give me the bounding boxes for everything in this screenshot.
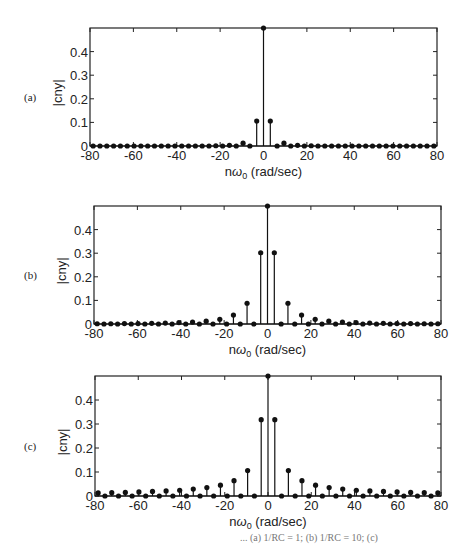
- stem-marker: [217, 317, 222, 322]
- x-tick-label: 0: [264, 498, 271, 513]
- stem-marker: [285, 301, 290, 306]
- y-axis-label: |cny|: [55, 429, 70, 456]
- stem-marker: [313, 483, 318, 488]
- stem-marker: [109, 490, 114, 495]
- stem-marker: [265, 203, 270, 208]
- stem-marker: [163, 320, 168, 325]
- stem-marker: [354, 488, 359, 493]
- x-tick-label: -40: [171, 326, 190, 341]
- figure-caption: ... (a) 1/RC = 1; (b) 1/RC = 10; (c): [240, 532, 378, 543]
- x-tick-label: 80: [434, 326, 448, 341]
- y-tick-label: 0.3: [74, 246, 92, 261]
- stem-marker: [327, 485, 332, 490]
- panel-label: (b): [24, 269, 37, 282]
- x-axis-label: nω0 (rad/sec): [225, 164, 302, 181]
- x-tick-label: 20: [304, 326, 318, 341]
- x-axis-label: nω0 (rad/sec): [229, 514, 306, 531]
- stem-marker: [261, 25, 266, 30]
- stem-marker: [204, 485, 209, 490]
- x-tick-label: 0: [264, 326, 271, 341]
- stem-marker: [295, 143, 300, 148]
- stem-marker: [281, 141, 286, 146]
- stem-marker: [394, 489, 399, 494]
- stem-marker: [231, 478, 236, 483]
- stem-plot-a: (a)-80-60-40-2002040608000.10.20.30.4nω0…: [24, 25, 444, 181]
- stem-marker: [218, 483, 223, 488]
- y-axis-label: |cny|: [50, 79, 65, 106]
- x-tick-label: 40: [343, 148, 357, 163]
- stem-marker: [96, 490, 101, 495]
- stem-marker: [245, 468, 250, 473]
- x-tick-label: 80: [434, 498, 448, 513]
- x-tick-label: 20: [304, 498, 318, 513]
- x-tick-label: -40: [167, 148, 186, 163]
- stem-marker: [367, 488, 372, 493]
- y-tick-label: 0: [81, 139, 88, 154]
- stem-marker: [254, 118, 259, 123]
- stem-marker: [367, 320, 372, 325]
- x-axis-label: nω0 (rad/sec): [229, 342, 306, 359]
- stem-plot-c: (c)-80-60-40-2002040608000.10.20.30.4nω0…: [24, 373, 448, 531]
- y-tick-label: 0.4: [70, 45, 88, 60]
- stem-marker: [177, 488, 182, 493]
- x-tick-label: 20: [300, 148, 314, 163]
- y-tick-label: 0: [86, 489, 93, 504]
- stem-marker: [326, 319, 331, 324]
- stem-plot-b: (b)-80-60-40-2002040608000.10.20.30.4nω0…: [24, 203, 448, 359]
- x-tick-label: 80: [430, 148, 444, 163]
- y-tick-label: 0.1: [70, 115, 88, 130]
- stem-marker: [265, 373, 270, 378]
- stem-marker: [123, 490, 128, 495]
- stem-marker: [227, 143, 232, 148]
- x-tick-label: -20: [211, 148, 230, 163]
- stem-marker: [272, 250, 277, 255]
- y-tick-label: 0.3: [75, 417, 93, 432]
- stem-marker: [286, 468, 291, 473]
- stem-marker: [435, 490, 440, 495]
- y-tick-label: 0: [85, 317, 92, 332]
- figure-stem-plots: (a)-80-60-40-2002040608000.10.20.30.4nω0…: [0, 0, 471, 544]
- y-tick-label: 0.4: [74, 223, 92, 238]
- x-tick-label: -40: [172, 498, 191, 513]
- x-tick-label: 40: [347, 498, 361, 513]
- x-tick-label: 0: [260, 148, 267, 163]
- x-tick-label: -20: [215, 498, 234, 513]
- stem-marker: [259, 417, 264, 422]
- stem-marker: [191, 486, 196, 491]
- stem-marker: [136, 489, 141, 494]
- x-tick-label: -60: [129, 498, 148, 513]
- panel-label: (c): [24, 440, 37, 453]
- stem-marker: [204, 319, 209, 324]
- stem-marker: [268, 118, 273, 123]
- x-tick-label: -20: [215, 326, 234, 341]
- y-tick-label: 0.1: [74, 293, 92, 308]
- stem-marker: [272, 417, 277, 422]
- stem-marker: [299, 312, 304, 317]
- y-tick-label: 0.1: [75, 465, 93, 480]
- stem-marker: [163, 488, 168, 493]
- stem-marker: [381, 489, 386, 494]
- stem-marker: [299, 478, 304, 483]
- x-tick-label: 60: [386, 148, 400, 163]
- stem-marker: [313, 317, 318, 322]
- stem-marker: [240, 141, 245, 146]
- stem-marker: [150, 489, 155, 494]
- stem-marker: [340, 486, 345, 491]
- y-tick-label: 0.3: [70, 68, 88, 83]
- y-tick-label: 0.2: [70, 92, 88, 107]
- y-tick-label: 0.2: [74, 270, 92, 285]
- x-tick-label: 40: [347, 326, 361, 341]
- stem-marker: [231, 312, 236, 317]
- y-axis-label: |cny|: [54, 257, 69, 284]
- stem-marker: [258, 250, 263, 255]
- panel-label: (a): [24, 91, 37, 104]
- stem-marker: [408, 490, 413, 495]
- x-tick-label: 60: [391, 498, 405, 513]
- x-tick-label: -60: [128, 326, 147, 341]
- y-tick-label: 0.2: [75, 441, 93, 456]
- stem-marker: [244, 301, 249, 306]
- x-tick-label: 60: [390, 326, 404, 341]
- stem-marker: [149, 321, 154, 326]
- stem-marker: [381, 321, 386, 326]
- y-tick-label: 0.4: [75, 393, 93, 408]
